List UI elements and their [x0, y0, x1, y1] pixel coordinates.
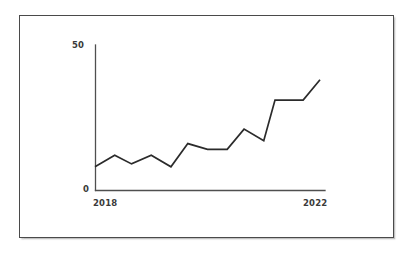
- y-axis-tick-label-top: 50: [72, 40, 84, 50]
- x-axis-tick-label-end: 2022: [303, 198, 327, 208]
- x-axis-tick-label-start: 2018: [93, 198, 117, 208]
- figure-root: 50 0 2018 2022: [0, 0, 418, 255]
- y-axis-tick-label-bottom: 0: [83, 184, 89, 194]
